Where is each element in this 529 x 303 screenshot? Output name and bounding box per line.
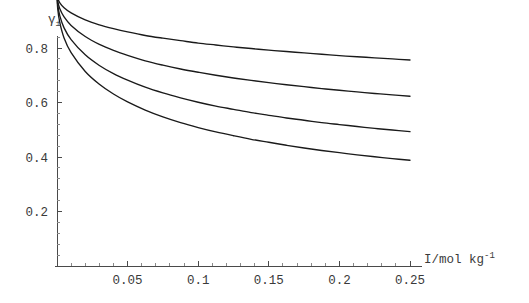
- y-axis-tick-labels: 0.20.40.60.81: [25, 0, 48, 220]
- y-axis-major-ticks: [57, 0, 62, 212]
- x-tick-label: 0.2: [328, 274, 351, 288]
- x-axis-label: I/mol kg-1: [424, 251, 495, 267]
- axes-group: [55, 36, 422, 266]
- x-tick-label: 0.05: [113, 274, 143, 288]
- y-axis-minor-ticks: [57, 37, 60, 255]
- y-tick-label: 1: [40, 0, 48, 2]
- data-curve: [57, 0, 410, 132]
- x-tick-label: 0.25: [395, 274, 425, 288]
- data-curve: [57, 0, 410, 160]
- x-tick-label: 0.1: [187, 274, 210, 288]
- chart-container: 0.050.10.150.20.25 0.20.40.60.81 γ± I/mo…: [0, 0, 529, 303]
- data-curves-group: [57, 0, 410, 160]
- y-tick-label: 0.4: [25, 152, 48, 166]
- data-curve: [57, 0, 410, 96]
- x-axis-tick-labels: 0.050.10.150.20.25: [113, 274, 425, 288]
- data-curve: [57, 0, 410, 60]
- activity-coefficient-plot: 0.050.10.150.20.25 0.20.40.60.81 γ± I/mo…: [0, 0, 529, 303]
- x-tick-label: 0.15: [254, 274, 284, 288]
- y-tick-label: 0.6: [25, 97, 48, 111]
- y-tick-label: 0.2: [25, 206, 48, 220]
- y-tick-label: 0.8: [25, 43, 48, 57]
